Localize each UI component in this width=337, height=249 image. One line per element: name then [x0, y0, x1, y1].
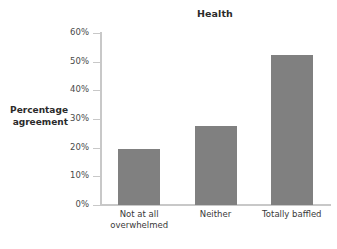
chart-title: Health	[100, 8, 330, 19]
y-axis-tick	[93, 119, 101, 120]
y-axis-tick-label: 60%	[55, 28, 89, 37]
y-axis-tick	[93, 62, 101, 63]
plot-area	[101, 33, 330, 205]
x-axis-tick-label: Not at alloverwhelmed	[101, 209, 177, 231]
x-axis-tick-label-line: Totally baffled	[254, 209, 330, 220]
y-axis-tick-label: 10%	[55, 171, 89, 180]
y-axis-tick	[93, 205, 101, 206]
y-axis-tick-label: 0%	[55, 200, 89, 209]
y-axis-tick	[93, 90, 101, 91]
y-axis-tick-label: 30%	[55, 114, 89, 123]
y-axis-tick	[93, 176, 101, 177]
x-axis-tick-label-line: Not at all	[101, 209, 177, 220]
y-axis-tick-label: 40%	[55, 85, 89, 94]
bar	[271, 55, 313, 206]
bar	[195, 126, 237, 205]
bar-chart: Health Percentage agreement 0%10%20%30%4…	[0, 0, 337, 249]
bar	[118, 149, 160, 205]
y-axis-tick-label: 20%	[55, 143, 89, 152]
x-axis-tick-label: Totally baffled	[254, 209, 330, 220]
x-axis-tick-label-line: Neither	[177, 209, 253, 220]
x-axis-tick-label-line: overwhelmed	[101, 220, 177, 231]
x-axis-tick-label: Neither	[177, 209, 253, 220]
y-axis-tick	[93, 33, 101, 34]
y-axis-tick-label: 50%	[55, 57, 89, 66]
y-axis-tick	[93, 148, 101, 149]
